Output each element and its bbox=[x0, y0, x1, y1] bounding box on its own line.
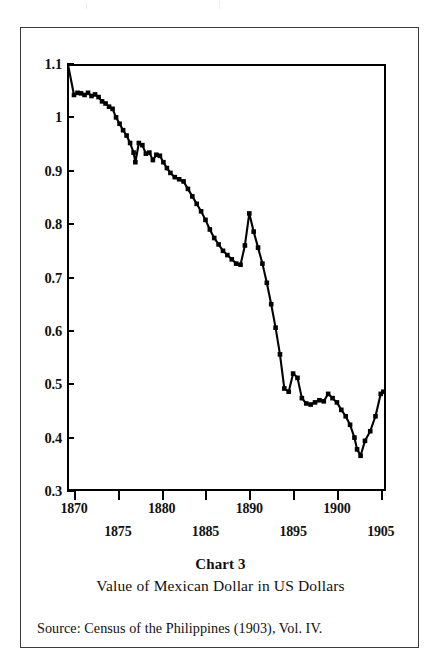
y-tick-mark bbox=[67, 223, 74, 225]
y-tick-label: 0.7 bbox=[44, 269, 62, 286]
x-tick-label: 1885 bbox=[192, 524, 219, 540]
caption-block: Chart 3 Value of Mexican Dollar in US Do… bbox=[21, 556, 420, 595]
scan-artifact-right bbox=[219, 1, 220, 9]
y-tick-label: 1 bbox=[55, 109, 62, 126]
y-tick-label: 0.5 bbox=[44, 376, 62, 393]
y-tick-mark bbox=[67, 330, 74, 332]
series-line-mexican-dollar bbox=[67, 64, 386, 491]
y-axis-ticks: 1.110.90.80.70.60.50.40.3 bbox=[21, 64, 62, 491]
y-tick-mark bbox=[67, 116, 74, 118]
x-tick-label: 1880 bbox=[148, 501, 175, 517]
x-axis-tick-labels: 18701875188018851890189519001905 bbox=[21, 499, 420, 545]
chart-subtitle: Value of Mexican Dollar in US Dollars bbox=[21, 577, 420, 595]
x-tick-label: 1905 bbox=[367, 524, 394, 540]
plot-area bbox=[67, 64, 386, 491]
x-tick-label: 1890 bbox=[236, 501, 263, 517]
y-tick-mark bbox=[67, 63, 74, 65]
figure-border: 1.110.90.80.70.60.50.40.3 18701875188018… bbox=[20, 27, 419, 648]
y-tick-label: 0.9 bbox=[44, 162, 62, 179]
y-tick-mark bbox=[67, 277, 74, 279]
y-tick-label: 1.1 bbox=[44, 56, 62, 73]
y-tick-label: 0.4 bbox=[44, 429, 62, 446]
x-tick-label: 1900 bbox=[323, 501, 350, 517]
y-tick-label: 0.8 bbox=[44, 216, 62, 233]
x-tick-label: 1875 bbox=[104, 524, 131, 540]
source-note: Source: Census of the Philippines (1903)… bbox=[37, 620, 322, 637]
chart-number: Chart 3 bbox=[21, 556, 420, 573]
y-tick-mark bbox=[67, 170, 74, 172]
y-tick-mark bbox=[67, 437, 74, 439]
x-tick-label: 1870 bbox=[60, 501, 87, 517]
x-tick-label: 1895 bbox=[279, 524, 306, 540]
y-tick-label: 0.3 bbox=[44, 483, 62, 500]
y-tick-mark bbox=[67, 383, 74, 385]
y-tick-label: 0.6 bbox=[44, 322, 62, 339]
scan-artifact-left bbox=[86, 3, 87, 9]
